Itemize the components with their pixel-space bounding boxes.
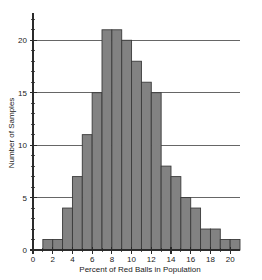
x-tick-label: 14 (167, 255, 176, 264)
histogram-bar (112, 30, 122, 250)
histogram-bar (220, 240, 230, 250)
y-tick-label: 10 (18, 141, 27, 150)
y-tick-label: 20 (18, 36, 27, 45)
histogram-bar (191, 208, 201, 250)
histogram-bar (181, 198, 191, 250)
y-tick-label: 15 (18, 89, 27, 98)
x-axis-title: Percent of Red Balls in Population (79, 265, 200, 274)
histogram-bar (53, 240, 63, 250)
histogram-bar (161, 166, 171, 250)
x-tick-label: 0 (31, 255, 36, 264)
histogram-bar (141, 82, 151, 250)
histogram-bar (43, 240, 53, 250)
histogram-bar (230, 240, 240, 250)
x-tick-label: 12 (147, 255, 156, 264)
histogram-bar (82, 135, 92, 250)
x-tick-label: 18 (206, 255, 215, 264)
histogram-bar (72, 177, 82, 250)
x-tick-label: 8 (110, 255, 115, 264)
x-tick-label: 16 (186, 255, 195, 264)
histogram-bar (102, 30, 112, 250)
histogram-figure: 0510152002468101214161820 Percent of Red… (0, 0, 262, 280)
histogram-bar (201, 229, 211, 250)
histogram-bar (210, 229, 220, 250)
histogram-bar (171, 177, 181, 250)
histogram-bar (63, 208, 73, 250)
x-tick-label: 2 (50, 255, 55, 264)
histogram-bar (92, 93, 102, 250)
x-tick-label: 4 (70, 255, 75, 264)
histogram-bar (132, 61, 142, 250)
histogram-bar (122, 40, 132, 250)
bars-group (43, 30, 240, 250)
chart-canvas: 0510152002468101214161820 Percent of Red… (0, 0, 262, 280)
histogram-bar (151, 93, 161, 250)
x-tick-label: 6 (90, 255, 95, 264)
x-tick-label: 20 (226, 255, 235, 264)
y-tick-label: 5 (23, 194, 28, 203)
y-axis-title: Number of Samples (7, 98, 16, 169)
x-tick-label: 10 (127, 255, 136, 264)
y-tick-label: 0 (23, 246, 28, 255)
